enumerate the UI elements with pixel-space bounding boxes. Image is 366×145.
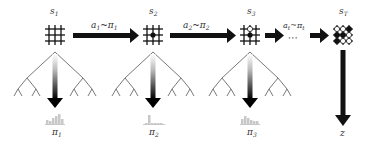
search-arrow-2 xyxy=(145,54,161,108)
state-label-sT: sT xyxy=(339,6,349,17)
action-label-1: a1~π1 xyxy=(91,20,118,31)
search-arrow-1 xyxy=(47,54,63,108)
self-play-diagram: s1 s2 s3 sT xyxy=(0,0,366,145)
state-label-s1: s1 xyxy=(50,6,58,17)
move-arrow-2 xyxy=(170,28,236,43)
policy-histogram-2 xyxy=(143,115,165,125)
action-label-t: at~πt xyxy=(283,21,305,31)
move-arrow-4 xyxy=(310,28,329,43)
search-arrow-3 xyxy=(242,54,258,108)
policy-label-3: π3 xyxy=(246,127,257,138)
svg-text:sT: sT xyxy=(339,6,349,17)
go-board-sT xyxy=(333,25,353,45)
black-stone xyxy=(150,32,155,37)
policy-label-2: π2 xyxy=(148,127,159,138)
go-board-s1 xyxy=(45,25,65,45)
state-label-s3: s3 xyxy=(247,6,256,17)
go-board-s2 xyxy=(143,25,163,45)
policy-label-1: π1 xyxy=(51,127,62,138)
white-stone xyxy=(247,26,252,31)
svg-text:s3: s3 xyxy=(247,6,256,17)
move-arrow-3 xyxy=(265,28,284,43)
state-label-s2: s2 xyxy=(149,6,158,17)
policy-histogram-3 xyxy=(240,116,260,125)
outcome-label: z xyxy=(339,128,345,138)
svg-text:s2: s2 xyxy=(149,6,158,17)
svg-text:s1: s1 xyxy=(50,6,58,17)
policy-histogram-1 xyxy=(45,114,65,125)
outcome-arrow xyxy=(335,50,351,126)
black-stone xyxy=(247,32,252,37)
ellipsis: ⋯ xyxy=(287,32,297,43)
move-arrow-1 xyxy=(73,28,139,43)
action-label-2: a2~π2 xyxy=(183,20,210,31)
go-board-s3 xyxy=(240,25,260,45)
